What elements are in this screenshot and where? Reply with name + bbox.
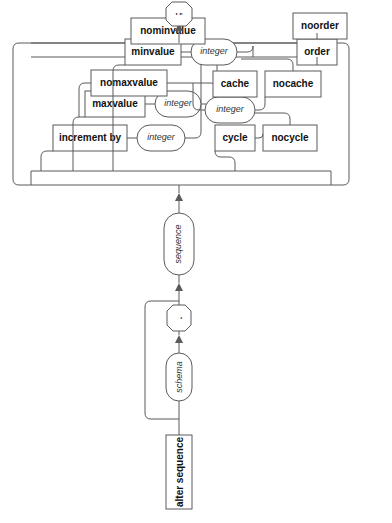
node-cache: cache [213,71,257,97]
node-nomaxvalue: nomaxvalue [91,70,167,96]
node-statement-terminator-label: ; [173,13,183,16]
node-nominvalue-label: nominvalue [140,25,196,36]
node-order-label: order [304,46,330,57]
node-cache-arg-integer: integer [205,97,255,123]
node-cache-arg-integer-label: integer [216,104,245,114]
node-increment-by-arg-integer: integer [137,125,185,151]
railroad-diagram-canvas: alter sequence schema . sequence [0,0,392,523]
node-noorder: noorder [293,13,347,39]
node-increment-by-label: increment by [59,132,122,143]
node-minvalue-arg-integer-label: integer [200,46,229,56]
node-statement-terminator: ; [166,2,192,26]
node-sequence: sequence [164,213,194,275]
node-cycle-label: cycle [222,132,247,143]
node-nocycle-label: nocycle [271,132,309,143]
node-cache-label: cache [221,78,250,89]
node-noorder-label: noorder [301,20,339,31]
option-group-order: order noorder [293,13,347,65]
node-nocache: nocache [265,71,321,97]
node-maxvalue-label: maxvalue [92,98,138,109]
node-maxvalue-arg-integer-label: integer [164,98,193,108]
node-schema: schema [166,353,192,401]
node-schema-label: schema [174,361,184,393]
node-increment-by: increment by [53,125,127,151]
node-minvalue-label: minvalue [131,46,175,57]
node-alter-sequence: alter sequence [166,435,192,509]
node-schema-separator-dot-label: . [174,317,184,320]
option-group-maxvalue: maxvalue integer nomaxvalue [73,57,217,171]
node-sequence-label: sequence [173,224,183,263]
node-nocache-label: nocache [273,78,314,89]
node-nocycle: nocycle [263,125,317,151]
node-alter-sequence-label: alter sequence [174,437,185,507]
node-increment-by-arg-integer-label: integer [147,132,176,142]
node-nomaxvalue-label: nomaxvalue [100,77,158,88]
node-cycle: cycle [215,125,255,151]
node-schema-separator-dot: . [167,305,191,331]
syntax-diagram-svg: alter sequence schema . sequence [0,0,392,523]
